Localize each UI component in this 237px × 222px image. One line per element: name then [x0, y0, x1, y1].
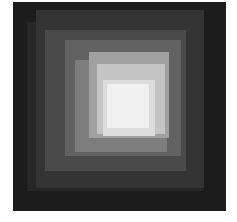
image-canvas: [0, 0, 237, 222]
exposure-field: [13, 2, 226, 211]
coverage-depth-10: [107, 84, 149, 128]
